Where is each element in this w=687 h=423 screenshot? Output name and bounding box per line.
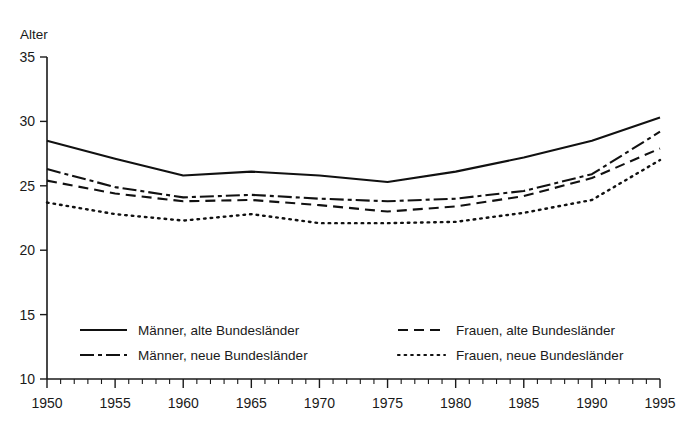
chart-svg: Alter 101520253035 195019551960196519701…	[0, 0, 687, 423]
series-line-1	[47, 118, 660, 182]
legend-label-1: Männer, alte Bundesländer	[138, 323, 300, 338]
y-tick-label: 35	[19, 49, 35, 65]
legend-label-2: Männer, neue Bundesländer	[138, 348, 308, 363]
y-tick-label: 30	[19, 113, 35, 129]
x-tick-label: 1965	[236, 395, 267, 411]
x-tick-label: 1990	[576, 395, 607, 411]
y-axis-title-group: Alter	[20, 27, 48, 42]
x-tick-label: 1995	[644, 395, 675, 411]
series-line-2	[47, 132, 660, 202]
legend-label-4: Frauen, neue Bundesländer	[456, 348, 624, 363]
data-series-group	[47, 118, 660, 224]
y-axis-tick-labels: 101520253035	[19, 49, 35, 387]
x-tick-label: 1960	[168, 395, 199, 411]
chart-legend: Männer, alte BundesländerMänner, neue Bu…	[80, 323, 624, 363]
x-tick-label: 1950	[31, 395, 62, 411]
x-tick-label: 1985	[508, 395, 539, 411]
y-axis-title: Alter	[20, 27, 48, 42]
y-tick-label: 25	[19, 178, 35, 194]
x-axis-tick-labels: 1950195519601965197019751980198519901995	[31, 395, 675, 411]
x-tick-label: 1955	[100, 395, 131, 411]
x-tick-label: 1970	[304, 395, 335, 411]
x-tick-label: 1975	[372, 395, 403, 411]
line-chart: Alter 101520253035 195019551960196519701…	[0, 0, 687, 423]
x-tick-label: 1980	[440, 395, 471, 411]
y-tick-label: 15	[19, 307, 35, 323]
legend-label-3: Frauen, alte Bundesländer	[456, 323, 616, 338]
y-tick-label: 20	[19, 242, 35, 258]
y-tick-label: 10	[19, 371, 35, 387]
series-line-4	[47, 160, 660, 223]
